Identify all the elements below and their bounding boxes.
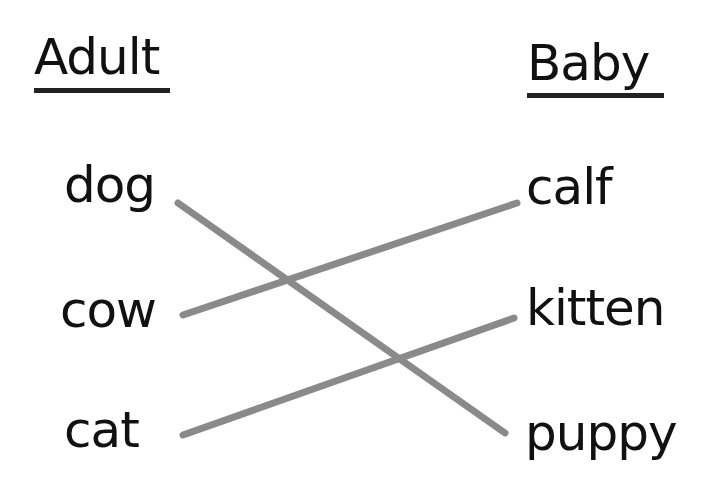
match-lines (0, 0, 720, 495)
match-line-dog-puppy (178, 203, 505, 433)
match-line-cat-kitten (183, 318, 514, 435)
match-line-cow-calf (183, 203, 517, 315)
